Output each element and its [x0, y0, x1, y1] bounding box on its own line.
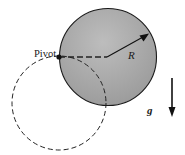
pivot-label: Pivot	[34, 48, 56, 59]
pivot-point	[56, 54, 61, 59]
radius-label: R	[128, 49, 135, 61]
gravity-label: g	[147, 104, 153, 116]
gravity-arrow-icon	[169, 78, 176, 117]
diagram-canvas	[0, 0, 185, 155]
pendulum-diagram: Pivot R g	[0, 0, 185, 155]
